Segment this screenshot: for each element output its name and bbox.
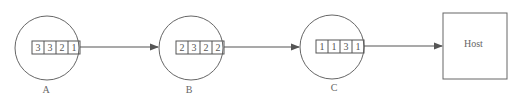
queue-c-cell: 3 xyxy=(340,40,352,53)
queue-c-cell: 1 xyxy=(316,40,328,53)
queue-b-cell: 2 xyxy=(212,41,224,54)
node-a-label: A xyxy=(42,84,49,95)
queue-a-cell: 2 xyxy=(56,41,68,54)
queue-c-cell: 1 xyxy=(352,40,364,53)
node-c-label: C xyxy=(331,82,338,93)
queue-a-cell: 1 xyxy=(68,41,80,54)
queue-a-cell: 3 xyxy=(44,41,56,54)
queue-b-cell: 2 xyxy=(176,41,188,54)
queue-c-cell: 1 xyxy=(328,40,340,53)
node-b-label: B xyxy=(186,84,193,95)
queue-b-cell: 2 xyxy=(200,41,212,54)
host-label: Host xyxy=(464,38,483,49)
queue-a-cell: 3 xyxy=(32,41,44,54)
queue-b-cell: 3 xyxy=(188,41,200,54)
